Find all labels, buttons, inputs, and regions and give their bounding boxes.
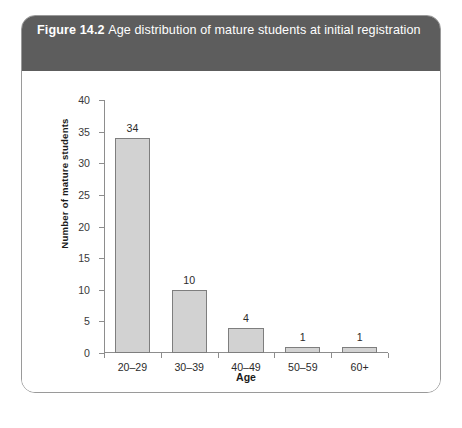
x-axis-tick <box>104 353 105 358</box>
y-axis-tick-label: 20 <box>78 221 90 233</box>
y-axis-tick-label: 15 <box>78 252 90 264</box>
y-axis-tick: 10 <box>99 290 104 291</box>
y-axis-tick-label: 5 <box>84 315 90 327</box>
y-axis-tick: 40 <box>99 100 104 101</box>
x-axis-category-label: 40–49 <box>231 361 260 373</box>
y-axis-tick-label: 40 <box>78 94 90 106</box>
y-axis-tick-label: 10 <box>78 284 90 296</box>
bar-value-label: 34 <box>126 122 138 134</box>
figure-caption-body: Age distribution of mature students at i… <box>108 23 421 37</box>
y-axis-line <box>104 100 105 353</box>
bar-value-label: 1 <box>300 331 306 343</box>
y-axis-tick-label: 0 <box>84 347 90 359</box>
bar <box>172 290 207 353</box>
bar <box>342 347 377 353</box>
y-axis-tick: 25 <box>99 195 104 196</box>
x-axis-category-label: 50–59 <box>288 361 317 373</box>
x-axis-tick <box>218 353 219 358</box>
y-axis-tick: 5 <box>99 321 104 322</box>
y-axis-title: Number of mature students <box>59 104 70 264</box>
x-axis-tick <box>331 353 332 358</box>
x-axis-category-label: 60+ <box>351 361 369 373</box>
y-axis-tick-label: 30 <box>78 157 90 169</box>
y-axis-tick: 30 <box>99 163 104 164</box>
bar <box>285 347 320 353</box>
figure-number-label: Figure 14.2 <box>37 23 105 37</box>
figure-card: Figure 14.2 Age distribution of mature s… <box>21 15 441 393</box>
figure-caption-band: Figure 14.2 Age distribution of mature s… <box>21 15 441 71</box>
y-axis-tick-label: 25 <box>78 189 90 201</box>
y-axis-tick-label: 35 <box>78 126 90 138</box>
x-axis-category-label: 30–39 <box>174 361 203 373</box>
x-axis-tick <box>161 353 162 358</box>
chart-axes: 0510152025303540 3410411 20–2930–3940–49… <box>104 100 388 353</box>
bar-value-label: 10 <box>183 274 195 286</box>
x-axis-tick <box>388 353 389 358</box>
y-axis-tick: 35 <box>99 132 104 133</box>
bar-value-label: 1 <box>357 331 363 343</box>
bar <box>115 138 150 353</box>
bar-value-label: 4 <box>243 312 249 324</box>
x-axis-tick <box>274 353 275 358</box>
bar <box>228 328 263 353</box>
y-axis-tick: 20 <box>99 227 104 228</box>
x-axis-category-label: 20–29 <box>118 361 147 373</box>
plot-region: Number of mature students Age 0510152025… <box>22 72 441 393</box>
y-axis-tick: 15 <box>99 258 104 259</box>
